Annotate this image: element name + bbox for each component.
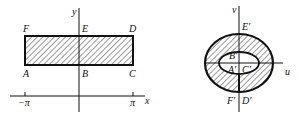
tick-label-pi: π	[130, 97, 136, 108]
point-label-C-prime: C′	[242, 64, 252, 75]
point-label-F: F	[22, 23, 30, 34]
x-axis-label: x	[144, 95, 150, 106]
u-axis-label: u	[285, 66, 290, 77]
right-figure: v u E′ B′ A′ C′ F′ D′	[204, 4, 290, 112]
point-label-E: E	[81, 23, 88, 34]
v-axis-label: v	[232, 4, 237, 15]
left-figure: y x −π π F E D A B C	[10, 6, 150, 112]
point-label-C: C	[129, 68, 136, 79]
diagram-canvas: y x −π π F E D A B C v u E′ B′ A′ C′ F′ …	[0, 0, 300, 115]
point-label-F-prime: F′	[226, 95, 236, 106]
point-label-A-prime: A′	[227, 64, 237, 75]
point-label-D-prime: D′	[241, 95, 252, 106]
tick-label-neg-pi: −π	[18, 97, 31, 108]
y-axis-label: y	[71, 6, 77, 17]
point-label-B: B	[82, 68, 88, 79]
point-label-E-prime: E′	[241, 21, 251, 32]
point-label-A: A	[22, 68, 30, 79]
point-label-D: D	[128, 23, 137, 34]
point-label-B-prime: B′	[229, 50, 238, 61]
